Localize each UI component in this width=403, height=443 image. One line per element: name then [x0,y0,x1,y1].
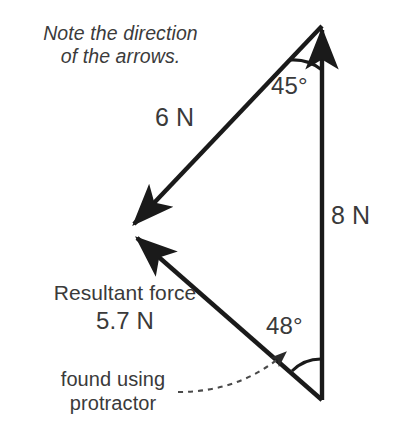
annotation-line-2: protractor [70,392,157,414]
note-line-2: of the arrows. [61,45,181,67]
force-vector-diagram: Note the direction of the arrows. 6 N 8 … [0,0,403,443]
note-line-1: Note the direction [43,22,198,44]
note-direction-of-arrows: Note the direction of the arrows. [18,22,223,68]
annotation-line-1: found using [61,368,166,390]
label-force-8n: 8 N [331,201,370,231]
annotation-leader-line [178,352,286,392]
angle-arc-45 [290,60,322,70]
label-force-6n: 6 N [155,103,194,133]
label-angle-48: 48° [266,312,303,340]
label-angle-45: 45° [271,72,308,100]
annotation-found-using-protractor: found using protractor [46,368,180,415]
angle-arc-48 [292,359,322,371]
label-resultant-force: Resultant force 5.7 N [32,281,218,335]
resultant-caption: Resultant force [54,281,197,304]
resultant-value: 5.7 N [32,307,218,335]
